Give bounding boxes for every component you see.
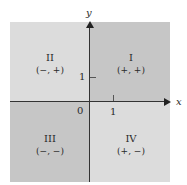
- quadrant-iv-signs: (+, −): [111, 145, 151, 157]
- x-axis-arrow-icon: [164, 98, 171, 106]
- quadrant-ii-label: II (−, +): [30, 52, 70, 76]
- x-axis-line: [10, 101, 166, 102]
- x-axis-tick: [113, 95, 114, 101]
- quadrant-ii-signs: (−, +): [30, 64, 70, 76]
- quadrant-i-numeral: I: [111, 52, 151, 64]
- y-tick-label: 1: [79, 72, 85, 82]
- quadrant-i-label: I (+, +): [111, 52, 151, 76]
- quadrant-iii-label: III (−, −): [30, 133, 70, 157]
- y-axis-label: y: [86, 8, 92, 18]
- y-axis-tick: [90, 77, 96, 78]
- quadrant-i-signs: (+, +): [111, 64, 151, 76]
- y-axis-line: [89, 26, 90, 182]
- origin-label: 0: [77, 106, 83, 116]
- quadrant-iv-label: IV (+, −): [111, 133, 151, 157]
- y-axis-arrow-icon: [86, 21, 94, 28]
- quadrant-iv-numeral: IV: [111, 133, 151, 145]
- quadrant-ii-numeral: II: [30, 52, 70, 64]
- quadrant-iii-signs: (−, −): [30, 145, 70, 157]
- x-tick-label: 1: [110, 107, 116, 117]
- quadrant-iii-numeral: III: [30, 133, 70, 145]
- x-axis-label: x: [176, 97, 182, 107]
